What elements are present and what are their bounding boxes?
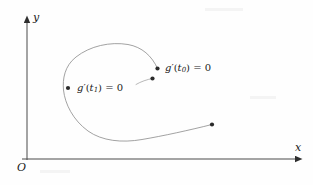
annotation-t0-equals: = 0 [193, 62, 211, 73]
curve-endpoint-dot [210, 122, 214, 126]
critical-point-t0-dot [155, 66, 159, 70]
x-axis-label: x [295, 142, 301, 153]
inner-point-dot [150, 76, 154, 80]
inner-tail-curve [136, 79, 153, 85]
annotation-t1-equals: = 0 [105, 82, 123, 93]
origin-label: O [17, 162, 26, 173]
annotation-label-t0: g′(t0) = 0 [165, 63, 211, 74]
critical-point-t1-dot [66, 86, 70, 90]
figure-canvas: y x O g′(t0) = 0 g′(t1) = 0 [0, 0, 313, 185]
annotation-t1-close-paren: ) [98, 82, 102, 93]
annotation-label-t1: g′(t1) = 0 [77, 83, 123, 94]
annotation-t0-close-paren: ) [186, 62, 190, 73]
y-axis-label: y [33, 12, 39, 23]
